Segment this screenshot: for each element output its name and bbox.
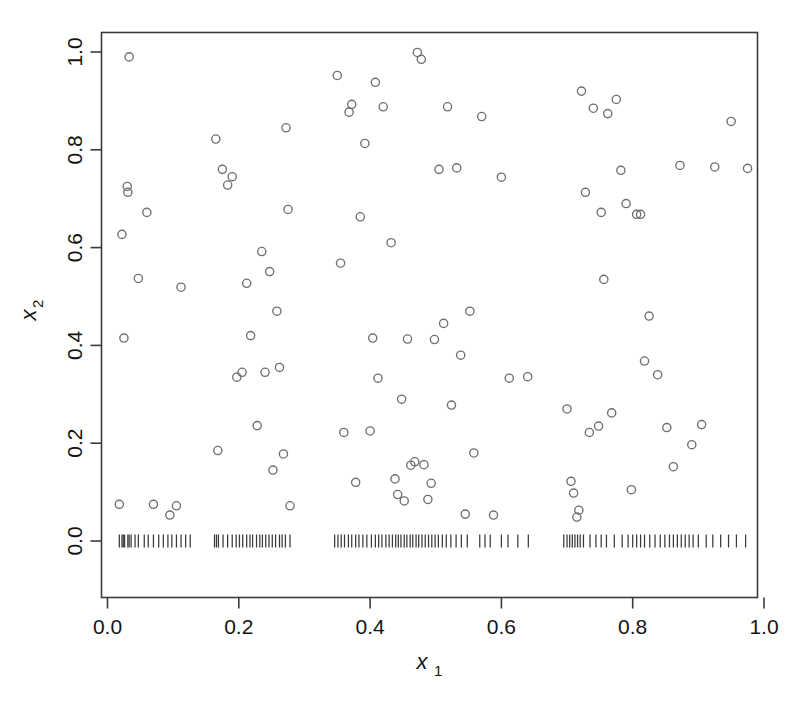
- x-tick-label: 0.6: [487, 615, 516, 638]
- x-axis-title-text: x: [416, 649, 429, 674]
- y-axis-title-subscript: 2: [29, 300, 46, 308]
- y-tick-label: 0.0: [63, 526, 86, 555]
- x-axis-title-subscript: 1: [434, 662, 442, 679]
- y-tick-label: 1.0: [63, 37, 86, 66]
- x-tick-label: 0.8: [618, 615, 647, 638]
- x-tick-label: 1.0: [749, 615, 778, 638]
- y-tick-label: 0.4: [63, 330, 86, 360]
- y-tick-label: 0.6: [63, 233, 86, 262]
- scatter-plot-figure: 0.00.20.40.60.81.0 0.00.20.40.60.81.0 x …: [0, 0, 789, 703]
- x-tick-label: 0.0: [93, 615, 122, 638]
- y-axis-title-text: x: [16, 309, 41, 322]
- y-tick-label: 0.2: [63, 429, 86, 458]
- y-tick-label: 0.8: [63, 135, 86, 164]
- plot-canvas: 0.00.20.40.60.81.0 0.00.20.40.60.81.0 x …: [0, 0, 789, 703]
- x-tick-label: 0.2: [224, 615, 253, 638]
- x-tick-label: 0.4: [355, 615, 385, 638]
